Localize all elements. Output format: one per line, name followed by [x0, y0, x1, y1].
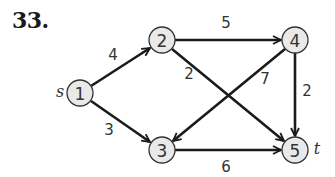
node-3-label: 3: [157, 141, 168, 161]
node-5: 5: [282, 137, 308, 163]
sink-label: t: [314, 139, 321, 158]
graph-diagram: 4 3 5 2 7 2 6 1 2 3 4 5 s t: [0, 0, 335, 177]
edge-1-2: [91, 48, 150, 86]
edge-label-2-4: 5: [221, 14, 231, 32]
node-1-label: 1: [75, 84, 86, 104]
node-2-label: 2: [157, 31, 168, 51]
edge-1-3: [91, 101, 150, 142]
edges: [91, 40, 295, 150]
source-label: s: [56, 82, 64, 101]
node-4: 4: [282, 27, 308, 53]
edge-label-1-3: 3: [104, 121, 114, 139]
node-1: 1: [67, 80, 93, 106]
node-4-label: 4: [290, 31, 301, 51]
edge-label-1-2: 4: [108, 46, 118, 64]
node-2: 2: [149, 27, 175, 53]
node-3: 3: [149, 137, 175, 163]
edge-label-4-3: 7: [260, 70, 270, 88]
edge-labels: 4 3 5 2 7 2 6: [104, 14, 312, 176]
edge-label-3-5: 6: [221, 158, 231, 176]
edge-label-4-5: 2: [302, 82, 312, 100]
edge-label-2-5: 2: [184, 65, 194, 83]
node-5-label: 5: [290, 141, 301, 161]
